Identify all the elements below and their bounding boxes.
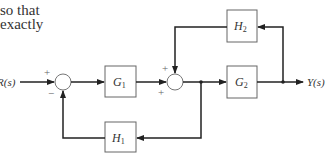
junction1-minus-sign: − — [48, 87, 54, 99]
junction1-plus-sign: + — [44, 66, 50, 78]
junction2-left-plus-sign: + — [158, 86, 164, 98]
output-label: Y(s) — [307, 76, 325, 89]
h1-to-j1-path — [63, 91, 105, 138]
input-label: R(s) — [0, 76, 16, 89]
h1-feedback-path — [137, 82, 201, 138]
h2-to-j2-path — [175, 27, 227, 73]
h2-feedback-path — [258, 27, 283, 82]
junction2-top-plus-sign: + — [162, 62, 168, 74]
summing-junction-2 — [167, 74, 183, 90]
summing-junction-1 — [55, 74, 71, 90]
block-diagram: R(s) + − G1 + + G2 Y(s) H2 H1 — [0, 0, 326, 156]
